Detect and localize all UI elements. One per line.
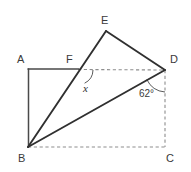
angle-label-x: x [82,82,88,94]
segment-F-D [78,70,165,71]
vertex-label-D: D [170,53,178,65]
vertex-label-C: C [166,152,174,164]
segment-E-D [106,31,165,70]
segment-B-E [28,31,106,147]
vertex-label-F: F [66,53,73,65]
vertex-label-B: B [18,152,25,164]
angle-label-62: 62° [139,88,154,99]
geometry-canvas: A B C D E F x 62° [0,0,191,172]
vertex-label-E: E [101,14,108,26]
vertex-label-A: A [17,53,25,65]
geometry-figure: A B C D E F x 62° [0,0,191,172]
segment-B-D [28,70,165,147]
